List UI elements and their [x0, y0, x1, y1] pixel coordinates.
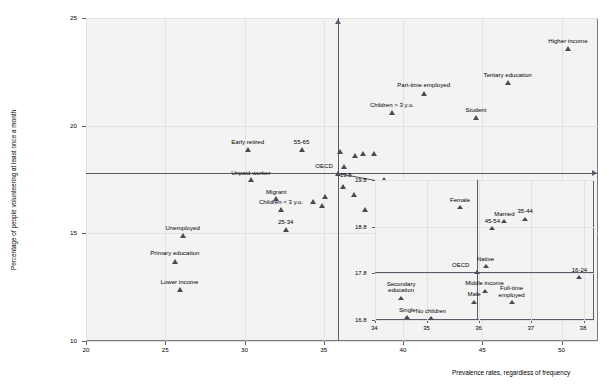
inset-y-tick-label: 18.8: [355, 224, 367, 230]
data-point: [565, 46, 571, 51]
data-point-label: 55-65: [294, 139, 310, 145]
inset-y-tick: [372, 320, 375, 321]
inset-data-point: [509, 300, 515, 304]
x-tick-label: 50: [558, 347, 565, 353]
inset-gridline-vertical: [427, 180, 428, 320]
x-tick-label: 40: [400, 347, 407, 353]
x-tick-label: 45: [479, 347, 486, 353]
data-point-label: Higher income: [548, 38, 587, 44]
inset-data-point-label: 45-54: [485, 218, 500, 224]
y-tick: [82, 18, 86, 19]
data-point-label: Part-time employed: [397, 83, 450, 90]
x-tick-label: 20: [83, 347, 90, 353]
inset-gridline-horizontal: [375, 273, 594, 274]
inset-data-point: [398, 296, 404, 300]
data-point: [352, 153, 358, 158]
data-point: [337, 149, 343, 154]
x-tick: [165, 341, 166, 345]
gridline-vertical: [245, 18, 246, 341]
gridline-vertical: [324, 18, 325, 341]
data-point: [283, 227, 289, 232]
inset-x-tick-label: 35: [423, 325, 430, 331]
inset-data-point-label: 16-24: [572, 267, 587, 273]
x-tick: [245, 341, 246, 345]
data-point: [505, 80, 511, 85]
data-point: [248, 177, 254, 182]
inset-data-point-label: 35-44: [517, 208, 532, 214]
data-point-label: Migrant: [266, 189, 286, 195]
oecd-label: OECD: [315, 163, 333, 169]
gridline-horizontal: [86, 126, 598, 127]
inset-y-tick-label: 17.8: [355, 270, 367, 276]
data-point-label: Student: [465, 107, 486, 113]
inset-frame: [375, 180, 594, 320]
inset-x-tick-label: 37: [527, 325, 534, 331]
inset-gridline-vertical: [584, 180, 585, 320]
x-tick-label: 30: [241, 347, 248, 353]
x-tick: [86, 341, 87, 345]
data-point: [278, 207, 284, 212]
inset-data-point-label: Female: [450, 197, 470, 203]
inset-x-tick-label: 36: [475, 325, 482, 331]
gridline-vertical: [165, 18, 166, 341]
data-point: [371, 151, 377, 156]
gridline-horizontal: [86, 18, 598, 19]
data-point-label: Unpaid worker: [231, 169, 270, 175]
y-tick-label: 25: [70, 15, 77, 21]
y-axis-title: Percentage of people volunteering at lea…: [10, 110, 17, 270]
inset-x-tick-label: 38: [580, 325, 587, 331]
inset-data-point-label: Native: [477, 256, 494, 262]
data-point: [310, 199, 316, 204]
y-tick: [82, 233, 86, 234]
data-point: [319, 203, 325, 208]
inset-data-point-label: Male: [468, 291, 481, 297]
data-point-label: Lower income: [161, 279, 199, 285]
data-point: [362, 207, 368, 212]
data-point-label: 25-34: [278, 219, 294, 225]
inset-y-tick: [372, 180, 375, 181]
inset-y-tick: [372, 227, 375, 228]
y-tick: [82, 341, 86, 342]
inset-gridline-horizontal: [375, 227, 594, 228]
inset-data-point: [483, 264, 489, 268]
inset-data-point-label: Secondaryeducation: [387, 280, 416, 293]
data-point-label: Unemployed: [166, 225, 200, 231]
x-axis-title: Prevalence rates, regardless of frequenc…: [452, 369, 570, 376]
y-tick-label: 20: [70, 123, 77, 129]
data-point-label: Children > 3 y.o.: [370, 102, 414, 109]
data-point-label: Tertiary education: [484, 72, 532, 79]
inset-x-tick-label: 34: [371, 325, 378, 331]
data-point: [473, 115, 479, 120]
data-point: [340, 184, 346, 189]
data-point-label: Children < 3 y.o.: [259, 199, 303, 206]
axis-arrow: [592, 170, 597, 176]
data-point-label: Early retired: [231, 139, 264, 145]
crosshair-vertical: [338, 18, 339, 341]
inset-y-tick: [372, 273, 375, 274]
x-tick-label: 25: [162, 347, 169, 353]
inset-data-point-label: Single: [399, 307, 416, 313]
inset-data-point: [404, 315, 410, 319]
inset-data-point: [576, 275, 582, 279]
inset-oecd-data-point: [474, 270, 480, 274]
inset-data-point: [482, 289, 488, 293]
chart-root: 2025303540455010152025 Higher incomeTert…: [0, 0, 609, 384]
data-point: [172, 259, 178, 264]
data-point: [177, 287, 183, 292]
data-point-label: Primary education: [150, 251, 199, 258]
inset-y-tick-label: 16.8: [355, 317, 367, 323]
y-tick-label: 10: [70, 338, 77, 344]
inset-data-point: [428, 316, 434, 320]
data-point: [245, 147, 251, 152]
inset-gridline-vertical: [479, 180, 480, 320]
inset-top-value-label: 19.8: [340, 172, 352, 178]
inset-data-point-label: No children: [416, 308, 446, 314]
inset-data-point: [489, 226, 495, 230]
inset-data-point: [501, 219, 507, 223]
data-point: [360, 151, 366, 156]
inset-data-point: [522, 217, 528, 221]
y-tick-label: 15: [70, 230, 77, 236]
inset-data-point-label: Married: [494, 211, 514, 217]
data-point: [389, 110, 395, 115]
axis-arrow: [335, 19, 341, 24]
